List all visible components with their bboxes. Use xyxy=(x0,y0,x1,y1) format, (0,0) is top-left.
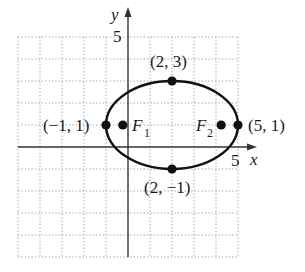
y-tick-label: 5 xyxy=(113,27,122,46)
vertex-right-point xyxy=(233,120,242,129)
focus-2-subscript: 2 xyxy=(207,126,213,140)
focus-2-label: F xyxy=(195,116,207,135)
y-axis-arrow-icon xyxy=(125,7,132,17)
vertex-left-label: (−1, 1) xyxy=(43,116,89,135)
focus-1-subscript: 1 xyxy=(144,126,150,140)
y-axis-label: y xyxy=(109,5,119,24)
focus-1-label: F xyxy=(131,116,143,135)
ellipse-diagram: y 5 x 5 (2, 3) (2, −1) (−1, 1) (5, 1) F … xyxy=(0,0,305,272)
vertex-right-label: (5, 1) xyxy=(248,116,285,135)
focus-2-point xyxy=(217,120,226,129)
vertex-top-label: (2, 3) xyxy=(150,52,187,71)
vertex-top-point xyxy=(167,76,176,85)
focus-1-point xyxy=(118,120,127,129)
vertex-left-point xyxy=(101,120,110,129)
x-tick-label: 5 xyxy=(231,151,240,170)
vertex-bottom-label: (2, −1) xyxy=(144,178,190,197)
x-axis-label: x xyxy=(249,150,258,169)
vertex-bottom-point xyxy=(167,164,176,173)
